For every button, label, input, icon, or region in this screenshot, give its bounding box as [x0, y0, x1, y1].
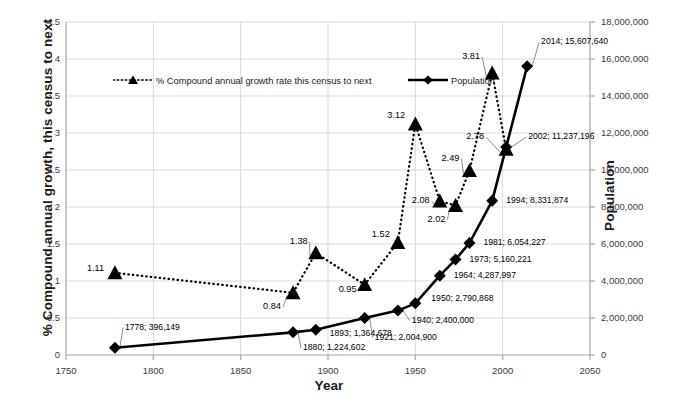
population-data-label: 1964; 4,287,997 — [454, 271, 516, 280]
growth-data-label: 0.95 — [339, 285, 357, 294]
growth-data-label: 3.12 — [387, 111, 405, 120]
chart-container: % Compound annual growth, this census to… — [0, 0, 677, 405]
population-data-label: 1973; 5,160,221 — [470, 255, 532, 264]
growth-data-label: 1.52 — [372, 230, 390, 239]
gridlines — [66, 22, 590, 355]
legend-item-population[interactable]: Population — [408, 74, 495, 88]
legend-item-growth[interactable]: % Compound annual growth rate this censu… — [113, 74, 372, 88]
growth-data-label: 1.11 — [87, 264, 104, 273]
population-data-label: 2014; 15,607,640 — [541, 37, 608, 46]
solid-diamond-key-icon — [408, 74, 448, 88]
population-data-label: 1778; 396,149 — [125, 323, 180, 332]
population-data-label: 2002; 11,237,196 — [528, 132, 594, 141]
growth-data-label: 2.08 — [412, 196, 430, 205]
population-data-label: 1921; 2,004,900 — [375, 333, 437, 342]
growth-data-label: 2.78 — [466, 132, 484, 141]
dotted-triangle-key-icon — [113, 74, 153, 88]
population-data-label: 1994; 8,331,874 — [506, 196, 568, 205]
growth-data-label: 1.38 — [290, 237, 308, 246]
legend-population-label: Population — [451, 76, 495, 86]
population-data-label: 1880; 1,224,602 — [303, 343, 365, 352]
growth-data-label: 2.02 — [428, 215, 446, 224]
growth-data-label: 3.81 — [462, 52, 480, 61]
axis-lines — [66, 22, 595, 360]
population-data-label: 1940; 2,400,000 — [412, 316, 474, 325]
population-data-label: 1981; 6,054,227 — [483, 238, 545, 247]
growth-data-label: 0.84 — [263, 302, 281, 311]
population-data-label: 1950; 2,790,868 — [431, 294, 493, 303]
growth-data-label: 2.49 — [441, 154, 459, 163]
legend-growth-label: % Compound annual growth rate this censu… — [156, 76, 372, 86]
